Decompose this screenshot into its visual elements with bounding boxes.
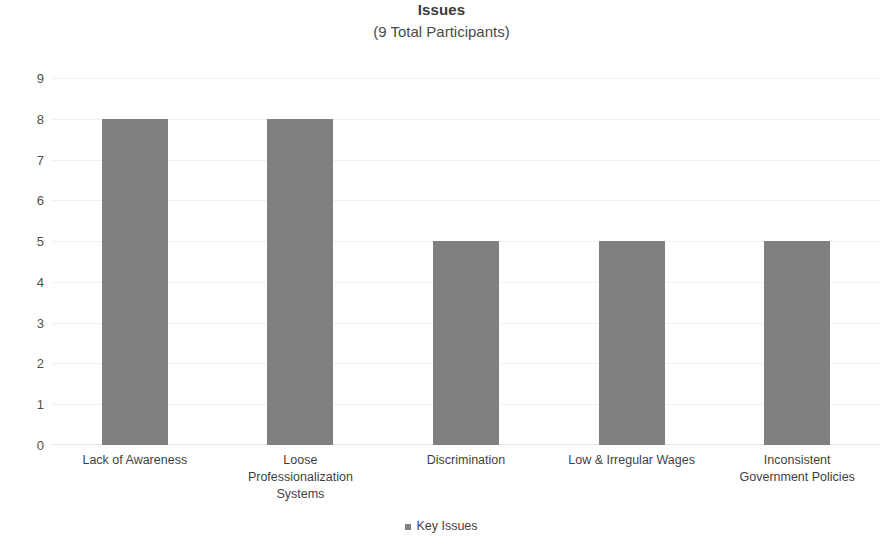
- bar-4[interactable]: [764, 241, 830, 445]
- x-tick-label-line: Lack of Awareness: [52, 452, 218, 469]
- y-tick-label-9: 9: [14, 72, 44, 85]
- bar-3[interactable]: [599, 241, 665, 445]
- y-tick-label-7: 7: [14, 153, 44, 166]
- y-tick-label-5: 5: [14, 235, 44, 248]
- x-tick-label-line: Inconsistent: [714, 452, 880, 469]
- chart-title: Issues: [0, 1, 883, 18]
- x-axis: Lack of AwarenessLooseProfessionalizatio…: [52, 452, 880, 510]
- gridline-9: [52, 78, 880, 79]
- y-tick-label-2: 2: [14, 357, 44, 370]
- y-tick-label-4: 4: [14, 275, 44, 288]
- x-tick-label-2: Discrimination: [383, 452, 549, 469]
- x-tick-label-line: Systems: [218, 486, 384, 503]
- y-tick-label-8: 8: [14, 112, 44, 125]
- y-tick-label-1: 1: [14, 398, 44, 411]
- y-tick-label-6: 6: [14, 194, 44, 207]
- legend-swatch-key-issues: [405, 524, 411, 530]
- bar-0[interactable]: [102, 119, 168, 445]
- x-tick-label-line: Professionalization: [218, 469, 384, 486]
- legend-label-key-issues: Key Issues: [416, 519, 477, 533]
- x-tick-label-line: Low & Irregular Wages: [549, 452, 715, 469]
- x-tick-label-line: Discrimination: [383, 452, 549, 469]
- x-tick-label-line: Government Policies: [714, 469, 880, 486]
- x-tick-label-4: InconsistentGovernment Policies: [714, 452, 880, 486]
- chart-subtitle: (9 Total Participants): [0, 23, 883, 40]
- gridline-6: [52, 200, 880, 201]
- x-tick-label-line: Loose: [218, 452, 384, 469]
- bar-1[interactable]: [267, 119, 333, 445]
- x-tick-label-0: Lack of Awareness: [52, 452, 218, 469]
- gridline-8: [52, 119, 880, 120]
- y-tick-label-0: 0: [14, 439, 44, 452]
- chart-legend: Key Issues: [0, 519, 883, 533]
- bar-2[interactable]: [433, 241, 499, 445]
- plot-area: [52, 78, 880, 445]
- x-tick-label-1: LooseProfessionalizationSystems: [218, 452, 384, 503]
- x-tick-label-3: Low & Irregular Wages: [549, 452, 715, 469]
- y-tick-label-3: 3: [14, 316, 44, 329]
- y-axis: 0123456789: [0, 78, 44, 445]
- gridline-7: [52, 160, 880, 161]
